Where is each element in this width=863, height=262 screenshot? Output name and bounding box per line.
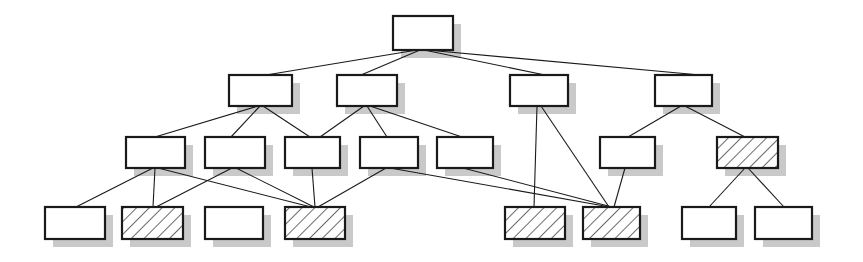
graph-edge — [534, 106, 537, 207]
graph-node[interactable] — [229, 75, 292, 106]
edge-layer — [76, 50, 784, 207]
node-rect-plain[interactable] — [45, 207, 105, 239]
node-rect-plain[interactable] — [682, 207, 736, 239]
node-rect-plain[interactable] — [600, 137, 655, 168]
graph-node[interactable] — [583, 207, 640, 239]
graph-edge — [628, 106, 681, 137]
node-rect-plain[interactable] — [126, 137, 185, 168]
graph-node[interactable] — [45, 207, 105, 239]
node-rect-plain[interactable] — [755, 207, 812, 239]
graph-node[interactable] — [337, 75, 397, 106]
graph-node[interactable] — [360, 137, 418, 168]
node-rect-hatched[interactable] — [717, 137, 778, 168]
graph-edge — [266, 50, 417, 75]
graph-node[interactable] — [717, 137, 778, 168]
graph-node[interactable] — [510, 75, 568, 106]
node-rect-hatched[interactable] — [285, 207, 345, 239]
graph-edge — [541, 106, 609, 207]
node-rect-plain[interactable] — [205, 207, 263, 239]
graph-edge — [463, 168, 612, 207]
graph-node[interactable] — [755, 207, 812, 239]
node-rect-plain[interactable] — [229, 75, 292, 106]
graph-node[interactable] — [205, 207, 263, 239]
graph-edge — [361, 50, 420, 75]
node-rect-plain[interactable] — [205, 137, 265, 168]
graph-node[interactable] — [285, 137, 340, 168]
graph-edge — [424, 50, 545, 75]
node-rect-hatched[interactable] — [505, 207, 565, 239]
node-rect-plain[interactable] — [360, 137, 418, 168]
node-rect-hatched[interactable] — [122, 207, 183, 239]
graph-edge — [155, 106, 258, 137]
graph-edge — [427, 50, 700, 75]
graph-node[interactable] — [505, 207, 565, 239]
graph-node[interactable] — [205, 137, 265, 168]
node-rect-plain[interactable] — [510, 75, 568, 106]
node-rect-plain[interactable] — [285, 137, 340, 168]
diagram-canvas — [0, 0, 863, 262]
graph-node[interactable] — [682, 207, 736, 239]
graph-node[interactable] — [126, 137, 185, 168]
graph-edge — [320, 106, 364, 137]
graph-node[interactable] — [655, 75, 712, 106]
node-rect-plain[interactable] — [393, 16, 453, 50]
node-layer — [45, 16, 812, 239]
node-rect-hatched[interactable] — [583, 207, 640, 239]
node-rect-plain[interactable] — [437, 137, 493, 168]
graph-node[interactable] — [122, 207, 183, 239]
graph-node[interactable] — [285, 207, 345, 239]
graph-svg — [0, 0, 863, 262]
node-rect-plain[interactable] — [337, 75, 397, 106]
graph-node[interactable] — [437, 137, 493, 168]
graph-node[interactable] — [600, 137, 655, 168]
graph-edge — [76, 168, 153, 207]
graph-node[interactable] — [393, 16, 453, 50]
node-rect-plain[interactable] — [655, 75, 712, 106]
